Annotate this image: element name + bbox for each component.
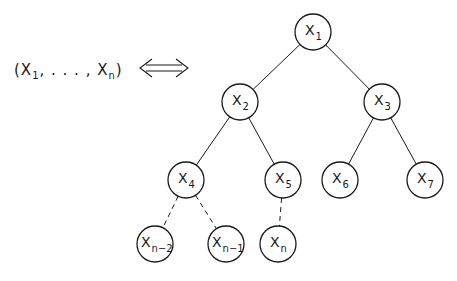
- binary-tree-diagram: X1X2X3X4X5X6X7Xn−2Xn−1Xn: [0, 0, 457, 281]
- tree-node-x3: X3: [364, 84, 400, 120]
- tree-node-xn1: Xn−1: [208, 226, 244, 262]
- tree-node-xn: Xn: [260, 226, 296, 262]
- tree-node-x5: X5: [265, 162, 301, 198]
- double-arrow-icon: [140, 59, 188, 77]
- edge-x1-x3: [326, 45, 370, 89]
- edge-x5-xn: [279, 198, 281, 226]
- tree-nodes: X1X2X3X4X5X6X7Xn−2Xn−1Xn: [137, 14, 443, 262]
- edge-x1-x2: [253, 44, 300, 89]
- edge-x2-x4: [196, 117, 230, 165]
- edge-x2-x5: [249, 118, 275, 164]
- tree-node-x4: X4: [168, 162, 204, 198]
- tree-node-x6: X6: [322, 162, 358, 198]
- edge-x3-x6: [349, 118, 374, 164]
- edge-x4-xn1: [196, 195, 217, 228]
- tree-node-x7: X7: [407, 162, 443, 198]
- edge-x4-xn2: [163, 196, 178, 228]
- edge-x3-x7: [391, 118, 417, 164]
- tree-edges: [163, 44, 416, 228]
- tree-node-x2: X2: [222, 84, 258, 120]
- tree-node-x1: X1: [295, 14, 331, 50]
- tree-node-xn2: Xn−2: [137, 226, 173, 262]
